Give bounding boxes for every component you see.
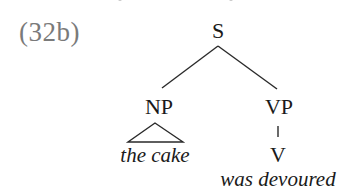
node-v: V bbox=[270, 144, 286, 166]
edge-s-to-vp bbox=[218, 46, 277, 89]
node-s: S bbox=[212, 20, 224, 42]
leaf-v-was-devoured: was devoured bbox=[220, 169, 335, 190]
edge-s-to-np bbox=[162, 46, 218, 88]
leaf-np-the-cake: the cake bbox=[120, 145, 189, 166]
np-triangle bbox=[128, 123, 183, 142]
node-np: NP bbox=[145, 96, 173, 118]
node-vp: VP bbox=[265, 96, 293, 118]
